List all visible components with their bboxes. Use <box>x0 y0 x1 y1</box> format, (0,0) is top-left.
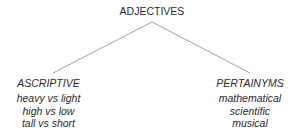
example-item: scientific <box>200 105 294 118</box>
edge-adjectives-ascriptive <box>53 22 152 73</box>
example-item: tall vs short <box>0 117 97 130</box>
example-item: musical <box>200 117 294 130</box>
example-item: mathematical <box>200 92 294 105</box>
edge-adjectives-pertainyms <box>152 22 250 73</box>
branch-examples-pertainyms: mathematical scientific musical <box>200 92 294 130</box>
example-item: high vs low <box>0 105 97 118</box>
branch-label-pertainyms: PERTAINYMS <box>200 77 294 89</box>
branch-examples-ascriptive: heavy vs light high vs low tall vs short <box>0 92 97 130</box>
root-node-adjectives: ADJECTIVES <box>102 5 202 17</box>
example-item: heavy vs light <box>0 92 97 105</box>
branch-label-ascriptive: ASCRIPTIVE <box>0 77 97 89</box>
